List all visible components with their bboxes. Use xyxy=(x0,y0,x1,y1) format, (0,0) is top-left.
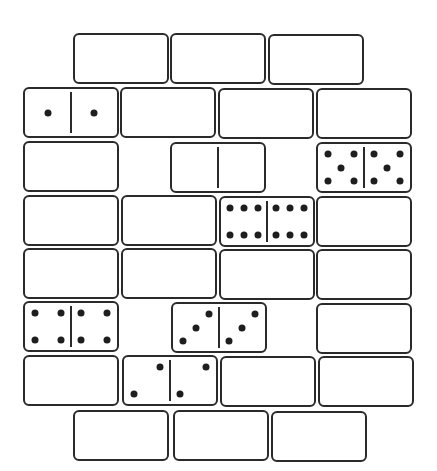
domino-half-left xyxy=(124,357,170,404)
empty-domino-slot[interactable] xyxy=(316,249,412,300)
domino-half-right xyxy=(364,144,410,191)
empty-domino-slot[interactable] xyxy=(73,33,169,84)
empty-domino-slot[interactable] xyxy=(316,196,412,247)
pip-icon xyxy=(371,151,378,158)
empty-domino-slot[interactable] xyxy=(121,248,217,299)
domino-half-left xyxy=(173,304,219,351)
pip-icon xyxy=(78,310,85,317)
domino-half-right xyxy=(218,144,264,191)
empty-domino-slot[interactable] xyxy=(121,195,217,246)
pip-icon xyxy=(57,310,64,317)
pip-icon xyxy=(300,205,307,212)
pip-icon xyxy=(273,231,280,238)
domino-tile-1-1[interactable] xyxy=(23,87,119,138)
domino-tile-3-3[interactable] xyxy=(171,302,267,353)
pip-icon xyxy=(32,336,39,343)
empty-domino-slot[interactable] xyxy=(318,356,414,407)
empty-domino-slot[interactable] xyxy=(271,411,367,462)
domino-tile-0-0[interactable] xyxy=(170,142,266,193)
pip-icon xyxy=(338,164,345,171)
domino-half-left xyxy=(172,144,218,191)
pip-icon xyxy=(300,231,307,238)
empty-domino-slot[interactable] xyxy=(220,356,316,407)
pip-icon xyxy=(254,231,261,238)
domino-half-left xyxy=(25,303,71,350)
domino-half-right xyxy=(170,357,216,404)
domino-half-right xyxy=(219,304,265,351)
pip-icon xyxy=(180,337,187,344)
empty-domino-slot[interactable] xyxy=(23,248,119,299)
pip-icon xyxy=(325,151,332,158)
pip-icon xyxy=(287,205,294,212)
pip-icon xyxy=(57,336,64,343)
domino-board xyxy=(0,0,437,471)
domino-half-right xyxy=(71,303,117,350)
domino-half-left xyxy=(221,198,267,245)
pip-icon xyxy=(202,364,209,371)
domino-tile-5-5[interactable] xyxy=(316,142,412,193)
empty-domino-slot[interactable] xyxy=(23,141,119,192)
pip-icon xyxy=(103,310,110,317)
empty-domino-slot[interactable] xyxy=(23,355,119,406)
pip-icon xyxy=(396,177,403,184)
domino-half-left xyxy=(318,144,364,191)
pip-icon xyxy=(193,324,200,331)
pip-icon xyxy=(325,177,332,184)
pip-icon xyxy=(371,177,378,184)
pip-icon xyxy=(103,336,110,343)
pip-icon xyxy=(350,177,357,184)
pip-icon xyxy=(254,205,261,212)
empty-domino-slot[interactable] xyxy=(218,88,314,139)
pip-icon xyxy=(241,205,248,212)
pip-icon xyxy=(45,109,52,116)
empty-domino-slot[interactable] xyxy=(170,33,266,84)
domino-half-right xyxy=(267,198,313,245)
pip-icon xyxy=(239,324,246,331)
pip-icon xyxy=(384,164,391,171)
pip-icon xyxy=(226,337,233,344)
pip-icon xyxy=(241,231,248,238)
pip-icon xyxy=(396,151,403,158)
empty-domino-slot[interactable] xyxy=(73,410,169,461)
pip-icon xyxy=(251,311,258,318)
pip-icon xyxy=(78,336,85,343)
pip-icon xyxy=(287,231,294,238)
pip-icon xyxy=(177,390,184,397)
pip-icon xyxy=(227,231,234,238)
pip-icon xyxy=(273,205,280,212)
empty-domino-slot[interactable] xyxy=(316,88,412,139)
pip-icon xyxy=(205,311,212,318)
pip-icon xyxy=(131,390,138,397)
pip-icon xyxy=(350,151,357,158)
domino-half-left xyxy=(25,89,71,136)
domino-half-right xyxy=(71,89,117,136)
domino-tile-2-2[interactable] xyxy=(122,355,218,406)
pip-icon xyxy=(156,364,163,371)
empty-domino-slot[interactable] xyxy=(173,410,269,461)
domino-tile-4-4[interactable] xyxy=(23,301,119,352)
empty-domino-slot[interactable] xyxy=(316,303,412,354)
pip-icon xyxy=(91,109,98,116)
pip-icon xyxy=(32,310,39,317)
pip-icon xyxy=(227,205,234,212)
empty-domino-slot[interactable] xyxy=(268,34,364,85)
domino-tile-6-6[interactable] xyxy=(219,196,315,247)
empty-domino-slot[interactable] xyxy=(219,249,315,300)
empty-domino-slot[interactable] xyxy=(120,87,216,138)
empty-domino-slot[interactable] xyxy=(23,195,119,246)
